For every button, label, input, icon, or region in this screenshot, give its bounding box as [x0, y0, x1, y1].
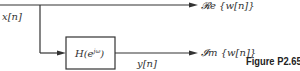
re-output-arrowhead: [189, 3, 198, 8]
figure-caption: Figure P2.65–: [246, 56, 300, 67]
im-output-arrowhead: [189, 51, 198, 56]
system-input-arrowhead: [57, 51, 66, 56]
system-label: H(e: [75, 48, 94, 59]
system-label-close: ): [100, 48, 104, 59]
input-label: x[n]: [2, 12, 22, 22]
intermediate-label: y[n]: [137, 59, 157, 69]
real-output-label: 𝓡e {w[n]}: [201, 1, 255, 11]
system-transfer-function: H(ejω): [75, 48, 104, 59]
